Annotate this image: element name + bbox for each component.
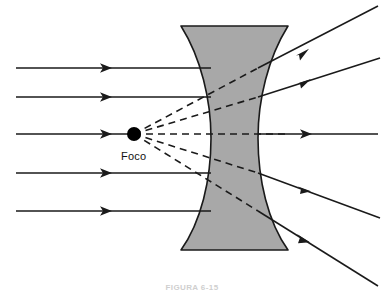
diverging-lens xyxy=(181,26,288,250)
optics-ray-diagram xyxy=(0,0,384,292)
refracted-ray-1-arrowhead xyxy=(296,49,309,61)
incident-rays-group xyxy=(16,63,211,216)
refracted-ray-5-arrowhead xyxy=(297,234,310,243)
focus-label: Foco xyxy=(121,150,146,162)
refracted-ray-2 xyxy=(258,58,380,97)
figure-caption: FIGURA 6-15 xyxy=(0,283,384,292)
lens-body xyxy=(181,26,288,250)
figure-container: Foco FIGURA 6-15 xyxy=(0,0,384,292)
refracted-ray-4-arrowhead xyxy=(298,187,311,195)
refracted-ray-2-arrowhead xyxy=(298,79,311,89)
focal-point-marker xyxy=(127,127,141,141)
refracted-ray-4 xyxy=(258,173,380,218)
